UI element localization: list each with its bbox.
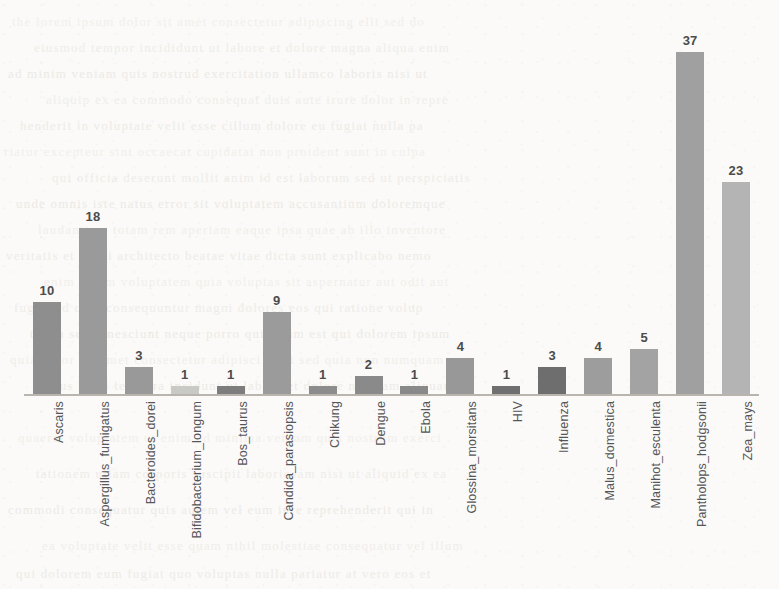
bar-value-label: 1 (181, 368, 188, 381)
bar-value-label: 23 (729, 164, 744, 177)
x-axis-tick-label: Chikung (328, 401, 342, 448)
bar[interactable] (355, 376, 383, 395)
x-axis-tick-label: Manihot_esculenta (649, 401, 663, 508)
bar-group[interactable]: 1 (217, 24, 245, 395)
bar-value-label: 5 (640, 331, 647, 344)
x-axis-tick-label: Zea_mays (741, 401, 755, 461)
x-axis-tick-label: Dengue (374, 401, 388, 446)
x-axis-tick-label: Glossina_morsitans (465, 401, 479, 513)
bar-group[interactable]: 4 (446, 24, 474, 395)
x-axis-line (24, 394, 759, 396)
bar-value-label: 1 (319, 368, 326, 381)
bar-value-label: 4 (595, 340, 602, 353)
bar-value-label: 2 (365, 358, 372, 371)
bar-group[interactable]: 23 (722, 24, 750, 395)
bar-value-label: 10 (40, 284, 55, 297)
x-axis-tick-label: Bifidobacterium_longum (190, 401, 204, 538)
bar-group[interactable]: 5 (630, 24, 658, 395)
bar-value-label: 37 (683, 34, 698, 47)
bar-group[interactable]: 4 (584, 24, 612, 395)
x-axis-tick-label: Ebola (419, 401, 433, 434)
x-axis-tick-label: Candida_parasiopsis (282, 401, 296, 521)
bar-group[interactable]: 3 (538, 24, 566, 395)
bar[interactable] (79, 228, 107, 395)
bar-value-label: 3 (135, 349, 142, 362)
bar[interactable] (584, 358, 612, 395)
bar-group[interactable]: 37 (676, 24, 704, 395)
bar[interactable] (630, 349, 658, 395)
bar-group[interactable]: 2 (355, 24, 383, 395)
plot-area: 10183119121413453723 (24, 24, 759, 395)
bar-group[interactable]: 18 (79, 24, 107, 395)
bar-group[interactable]: 9 (263, 24, 291, 395)
bar[interactable] (263, 312, 291, 395)
bar-group[interactable]: 1 (492, 24, 520, 395)
bar-value-label: 4 (457, 340, 464, 353)
x-axis-tick-label: Bacteroides_dorei (144, 401, 158, 504)
bar-value-label: 9 (273, 294, 280, 307)
bar-group[interactable]: 1 (309, 24, 337, 395)
bar-value-label: 1 (411, 368, 418, 381)
x-axis-tick-label: Ascaris (52, 401, 66, 443)
bar-group[interactable]: 3 (125, 24, 153, 395)
x-axis-tick-label: Aspergillus_fumigatus (98, 401, 112, 526)
bar-value-label: 1 (503, 368, 510, 381)
bar[interactable] (33, 302, 61, 395)
bar-group[interactable]: 10 (33, 24, 61, 395)
bar[interactable] (538, 367, 566, 395)
bar[interactable] (722, 182, 750, 395)
bar[interactable] (125, 367, 153, 395)
x-axis-tick-label: Influenza (557, 401, 571, 453)
bar-chart: 10183119121413453723 AscarisAspergillus_… (0, 0, 779, 589)
bar[interactable] (446, 358, 474, 395)
bar-group[interactable]: 1 (400, 24, 428, 395)
bar-value-label: 3 (549, 349, 556, 362)
x-axis-tick-label: Bos_taurus (236, 401, 250, 466)
x-axis-tick-label: Malus_domestica (603, 401, 617, 501)
bar-group[interactable]: 1 (171, 24, 199, 395)
bar-value-label: 18 (85, 210, 100, 223)
x-axis-tick-label: HIV (511, 401, 525, 422)
bar[interactable] (676, 52, 704, 395)
bar-value-label: 1 (227, 368, 234, 381)
x-axis-tick-label: Pantholops_hodgsonii (695, 401, 709, 527)
chart-page: the lorem ipsum dolor sit amet consectet… (0, 0, 779, 589)
